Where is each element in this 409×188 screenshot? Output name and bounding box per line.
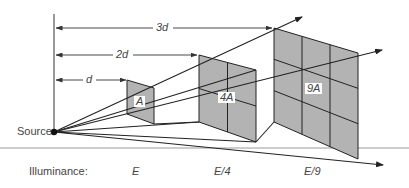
distance-label-d: d <box>86 74 92 85</box>
illuminance-label: Illuminance: <box>29 166 88 177</box>
illuminance-value-E-over-9: E/9 <box>304 166 321 177</box>
distance-label-3d: 3d <box>156 22 168 33</box>
area-label-4A: 4A <box>218 92 235 103</box>
illuminance-value-E-over-4: E/4 <box>214 166 231 177</box>
area-label-9A: 9A <box>305 83 322 94</box>
inverse-square-diagram <box>0 0 409 188</box>
area-label-A: A <box>134 96 145 107</box>
illuminance-value-E: E <box>132 166 139 177</box>
source-label: Source <box>17 126 52 137</box>
distance-label-2d: 2d <box>116 49 128 60</box>
